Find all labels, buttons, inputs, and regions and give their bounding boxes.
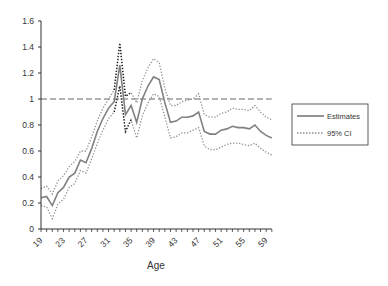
y-tick-label: 1.2: [22, 68, 34, 78]
x-tick-label: 27: [76, 235, 90, 249]
y-tick-label: 0: [29, 224, 34, 234]
y-tick-label: 0.4: [22, 172, 34, 182]
confidence-interval-lines: [41, 43, 272, 219]
line-chart: 00.20.40.60.811.21.41.619232731353943475…: [0, 0, 388, 286]
y-tick-label: 1.4: [22, 42, 34, 52]
x-tick-label: 23: [53, 235, 67, 249]
x-tick-label: 39: [143, 235, 157, 249]
legend: Estimates 95% CI: [292, 104, 368, 145]
legend-ci-label: 95% CI: [327, 129, 352, 138]
x-tick-label: 59: [256, 235, 270, 249]
y-tick-label: 0.6: [22, 146, 34, 156]
estimates-line: [41, 65, 272, 205]
x-tick-label: 55: [233, 235, 247, 249]
legend-estimates-label: Estimates: [327, 112, 360, 121]
x-tick-label: 47: [188, 235, 202, 249]
x-tick-label: 35: [121, 235, 135, 249]
axes: 00.20.40.60.811.21.41.619232731353943475…: [22, 16, 272, 249]
y-tick-label: 1.6: [22, 16, 34, 26]
x-tick-label: 31: [98, 235, 112, 249]
x-tick-label: 51: [211, 235, 225, 249]
y-tick-label: 1: [29, 94, 34, 104]
x-axis-title: Age: [147, 260, 165, 271]
y-tick-label: 0.8: [22, 120, 34, 130]
x-tick-label: 43: [166, 235, 180, 249]
x-tick-label: 19: [31, 235, 45, 249]
y-tick-label: 0.2: [22, 198, 34, 208]
